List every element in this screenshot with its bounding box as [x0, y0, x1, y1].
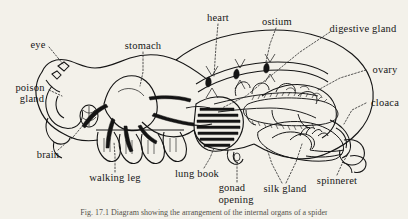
label-gonad-opening-line2: opening: [218, 194, 253, 206]
label-gonad-opening-line1: gonad: [219, 182, 246, 194]
label-brain: brain: [37, 149, 60, 161]
label-heart: heart: [207, 12, 229, 24]
leader-ostium: [266, 28, 276, 62]
leader-lines: [49, 24, 366, 183]
poison-gland-shape: [46, 86, 83, 158]
label-stomach: stomach: [125, 40, 161, 52]
leader-poison-gland: [49, 90, 62, 96]
gonad-opening-shape: [227, 150, 243, 164]
figure-caption: Fig. 17.1 Diagram showing the arrangemen…: [80, 208, 327, 219]
heart-shape: [196, 62, 328, 92]
silk-gland-shape: [258, 121, 344, 161]
intestine-shape: [244, 92, 339, 130]
label-poison-gland-line2: gland: [20, 93, 44, 105]
label-ostium: ostium: [262, 16, 292, 28]
leader-silk-gland-2: [286, 144, 302, 183]
label-walking-leg: walking leg: [89, 172, 140, 184]
label-lung-book: lung book: [175, 168, 219, 180]
heart-ligaments: [206, 54, 275, 98]
lung-lamellae: [197, 108, 240, 147]
leader-heart: [214, 24, 218, 76]
stomach-muscles: [82, 96, 194, 152]
eye-region: [46, 62, 69, 92]
label-ovary: ovary: [373, 64, 398, 76]
leader-cloaca: [344, 103, 366, 124]
label-cloaca: cloaca: [371, 97, 399, 109]
label-eye: eye: [30, 39, 45, 51]
label-silk-gland: silk gland: [263, 183, 306, 195]
leader-walking-leg: [114, 142, 115, 172]
label-digestive-gland: digestive gland: [330, 23, 397, 35]
leader-stomach: [140, 52, 143, 86]
label-spinneret: spinneret: [317, 175, 357, 187]
spider-anatomy-figure: eye stomach heart ostium digestive gland…: [0, 0, 408, 219]
label-poison-gland-line1: poison: [15, 82, 44, 94]
